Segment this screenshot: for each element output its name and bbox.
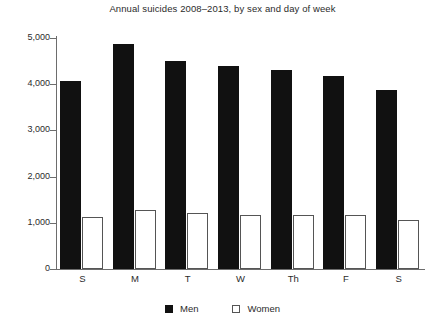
legend-label: Men (180, 303, 198, 314)
x-axis-tick-label: W (214, 273, 267, 284)
bars-layer (56, 0, 425, 269)
legend-item-men[interactable]: Men (165, 303, 198, 314)
y-axis-labels: 01,0002,0003,0004,0005,000 (0, 0, 50, 330)
bar-women-2 (187, 213, 208, 269)
x-axis-tick-label: S (56, 273, 109, 284)
y-axis-tick (50, 177, 56, 178)
bar-women-0 (82, 217, 103, 269)
bar-men-2 (165, 61, 186, 269)
bar-women-5 (345, 215, 366, 269)
x-axis-tick-label: T (161, 273, 214, 284)
bar-men-6 (376, 90, 397, 269)
y-axis-tick-label: 0 (6, 263, 50, 273)
y-axis-tick-label: 4,000 (6, 78, 50, 88)
bar-women-4 (293, 215, 314, 269)
y-axis-tick (50, 223, 56, 224)
bar-men-5 (323, 76, 344, 269)
bar-men-1 (113, 44, 134, 269)
x-axis-tick-label: M (109, 273, 162, 284)
chart-legend: MenWomen (0, 303, 445, 314)
legend-label: Women (247, 303, 280, 314)
y-axis-tick-label: 5,000 (6, 32, 50, 42)
y-axis-tick-label: 2,000 (6, 171, 50, 181)
y-axis-tick (50, 84, 56, 85)
x-axis-tick-label: F (320, 273, 373, 284)
x-axis-line (56, 269, 425, 270)
x-axis-tick-label: Th (267, 273, 320, 284)
bar-chart: Annual suicides 2008–2013, by sex and da… (0, 0, 445, 330)
legend-item-women[interactable]: Women (232, 303, 280, 314)
y-axis-tick-label: 3,000 (6, 124, 50, 134)
bar-women-3 (240, 215, 261, 269)
y-axis-tick (50, 269, 56, 270)
legend-swatch-icon (165, 305, 173, 313)
legend-swatch-icon (232, 305, 240, 313)
bar-women-1 (135, 210, 156, 269)
bar-women-6 (398, 220, 419, 269)
bar-men-0 (60, 81, 81, 269)
bar-men-3 (218, 66, 239, 269)
y-axis-tick-label: 1,000 (6, 217, 50, 227)
bar-men-4 (271, 70, 292, 269)
x-axis-tick-label: S (372, 273, 425, 284)
y-axis-tick (50, 130, 56, 131)
y-axis-tick (50, 38, 56, 39)
